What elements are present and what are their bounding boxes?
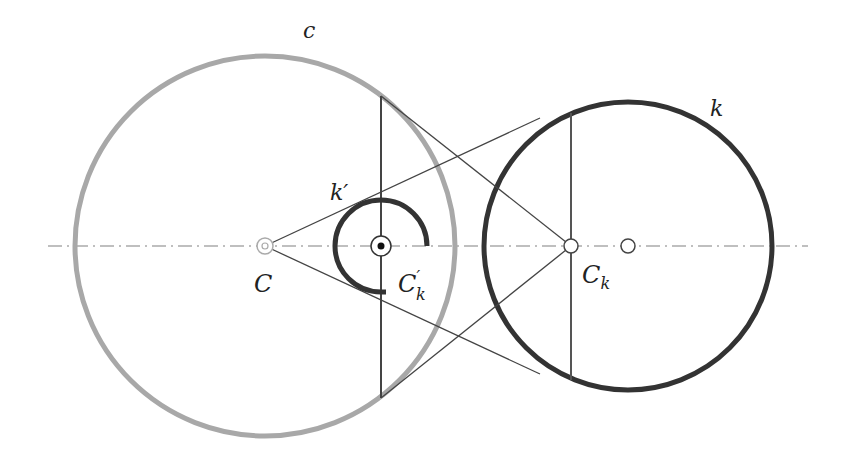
label-c: c	[303, 18, 315, 43]
label-Ck-base: C	[582, 261, 600, 289]
point-Ck	[564, 239, 578, 253]
label-C: C	[254, 270, 272, 298]
point-Ck-prime-dot	[378, 243, 385, 250]
point-center-k	[621, 239, 635, 253]
label-Ck-prime: C′k	[398, 267, 426, 304]
label-Ck-prime-sub: k	[416, 285, 426, 304]
label-Ck-prime-base: C	[398, 270, 416, 298]
label-k: k	[710, 96, 723, 121]
line-bottom-chord-to-Ck	[381, 246, 571, 398]
label-Ck-sub: k	[600, 274, 610, 293]
label-Ck-prime-sup: ′	[416, 267, 420, 286]
geometry-diagram: c k k′ C C′k Ck	[0, 0, 842, 464]
point-C-inner	[262, 243, 268, 249]
label-k-prime: k′	[330, 180, 348, 205]
line-top-chord-to-Ck	[381, 96, 571, 246]
label-Ck: Ck	[582, 261, 610, 293]
